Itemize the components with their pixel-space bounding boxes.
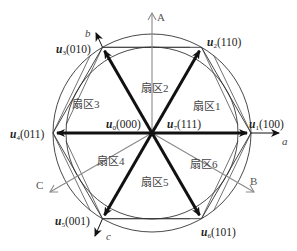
label-u5: u5(001) bbox=[55, 215, 90, 229]
space-vector-diagram: A B C a b c u1(100) u2(110) u3(010) u4(0… bbox=[0, 0, 297, 251]
vector-u6 bbox=[152, 133, 200, 215]
label-axis-C: C bbox=[36, 179, 43, 191]
label-sector-6: 扇区6 bbox=[190, 157, 218, 170]
vector-u5 bbox=[105, 133, 153, 215]
axis-b bbox=[96, 33, 103, 47]
label-axis-B: B bbox=[250, 175, 257, 187]
label-sector-2: 扇区2 bbox=[141, 81, 169, 94]
label-u0: u0(000) bbox=[106, 118, 141, 132]
label-u7: u7(111) bbox=[167, 118, 201, 132]
label-sector-1: 扇区1 bbox=[193, 99, 221, 112]
label-u2: u2(110) bbox=[207, 36, 242, 50]
label-axis-A: A bbox=[157, 11, 165, 23]
axis-c bbox=[95, 219, 103, 236]
label-sector-5: 扇区5 bbox=[141, 175, 169, 188]
label-axis-c: c bbox=[106, 230, 111, 242]
label-sector-4: 扇区4 bbox=[97, 154, 125, 167]
label-axis-a: a bbox=[282, 135, 288, 147]
label-u3: u3(010) bbox=[56, 43, 91, 57]
label-u6: u6(101) bbox=[201, 226, 236, 240]
label-u4: u4(011) bbox=[10, 128, 45, 142]
label-axis-b: b bbox=[85, 27, 91, 39]
label-u1: u1(100) bbox=[249, 118, 284, 132]
label-sector-3: 扇区3 bbox=[72, 97, 100, 110]
origin-dot bbox=[150, 131, 155, 136]
